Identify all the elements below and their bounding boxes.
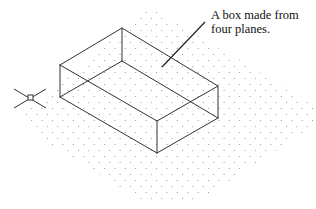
annotation-line-2: four planes. <box>211 22 299 36</box>
ucs-icon <box>14 89 46 108</box>
box-wireframe <box>60 28 218 153</box>
annotation-label: A box made from four planes. <box>211 8 299 36</box>
annotation-line-1: A box made from <box>211 8 299 22</box>
